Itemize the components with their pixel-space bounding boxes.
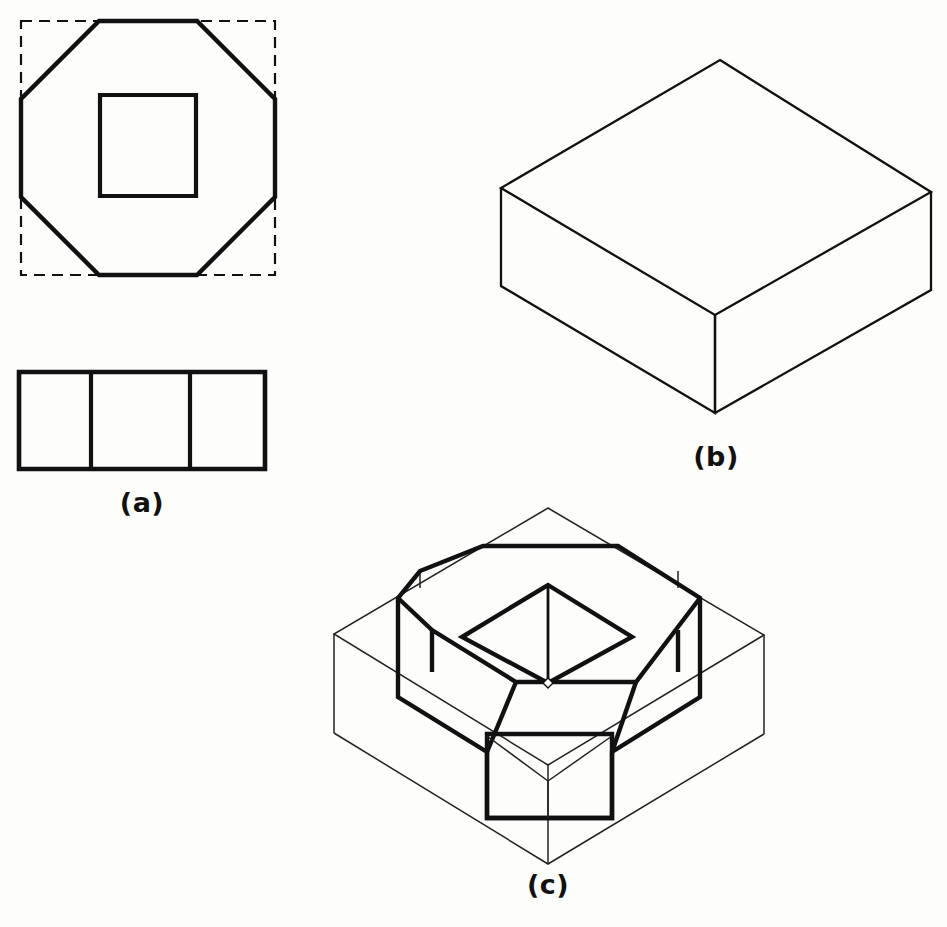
technical-drawing-canvas: (a) (b) (c)	[0, 0, 947, 927]
panel-b-label: (b)	[693, 441, 739, 472]
page-background	[0, 0, 947, 927]
figure-page: (a) (b) (c)	[0, 0, 947, 927]
panel-a-label: (a)	[120, 487, 164, 518]
panel-c-label: (c)	[527, 869, 569, 900]
